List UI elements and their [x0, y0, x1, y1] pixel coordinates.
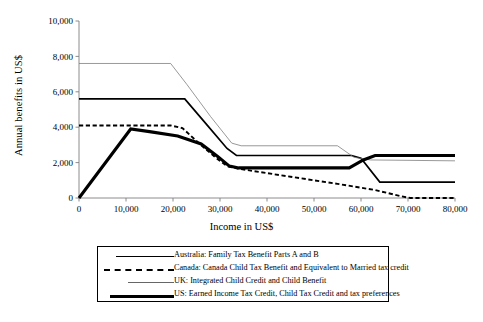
legend-item-canada: Canada: Canada Child Tax Benefit and Equ…: [98, 262, 388, 275]
y-axis-tick-label: 0: [69, 193, 74, 203]
y-axis-tick-label: 8,000: [53, 52, 74, 62]
y-axis-label: Annual benefits in US$: [8, 30, 30, 180]
legend-label-uk: UK: Integrated Child Credit and Child Be…: [174, 277, 326, 285]
line-chart-svg: 02,0004,0006,0008,00010,000010,00020,000…: [0, 0, 483, 240]
legend-swatch-uk: [104, 276, 174, 288]
x-axis-tick-label: 50,000: [302, 204, 327, 214]
legend-swatch-canada: [104, 263, 174, 275]
legend-item-us: US: Earned Income Tax Credit, Child Tax …: [98, 288, 388, 301]
x-axis-tick-label: 30,000: [208, 204, 233, 214]
series-line: [79, 99, 455, 182]
x-axis-label-text: Income in US$: [210, 221, 274, 232]
x-axis-label: Income in US$: [0, 221, 483, 232]
x-axis-tick-label: 0: [77, 204, 82, 214]
x-axis-tick-label: 80,000: [443, 204, 468, 214]
chart-legend: Australia: Family Tax Benefit Parts A an…: [97, 246, 389, 302]
legend-item-australia: Australia: Family Tax Benefit Parts A an…: [98, 249, 388, 262]
x-axis-tick-label: 70,000: [396, 204, 421, 214]
y-axis-tick-label: 2,000: [53, 158, 74, 168]
x-axis-tick-label: 40,000: [255, 204, 280, 214]
legend-swatch-us: [104, 289, 174, 301]
y-axis-tick-label: 6,000: [53, 87, 74, 97]
plot-area: 02,0004,0006,0008,00010,000010,00020,000…: [0, 0, 483, 240]
y-axis-tick-label: 10,000: [48, 16, 73, 26]
series-line: [79, 129, 455, 198]
legend-item-uk: UK: Integrated Child Credit and Child Be…: [98, 275, 388, 288]
y-axis-label-text: Annual benefits in US$: [14, 54, 25, 155]
x-axis-tick-label: 20,000: [161, 204, 186, 214]
y-axis-tick-label: 4,000: [53, 122, 74, 132]
chart-figure: 02,0004,0006,0008,00010,000010,00020,000…: [0, 0, 483, 322]
legend-label-australia: Australia: Family Tax Benefit Parts A an…: [174, 251, 319, 259]
legend-label-us: US: Earned Income Tax Credit, Child Tax …: [174, 290, 400, 298]
series-line: [79, 63, 455, 160]
legend-label-canada: Canada: Canada Child Tax Benefit and Equ…: [174, 264, 409, 272]
x-axis-tick-label: 60,000: [349, 204, 374, 214]
series-line: [79, 125, 455, 198]
x-axis-tick-label: 10,000: [114, 204, 139, 214]
legend-swatch-australia: [104, 250, 174, 262]
